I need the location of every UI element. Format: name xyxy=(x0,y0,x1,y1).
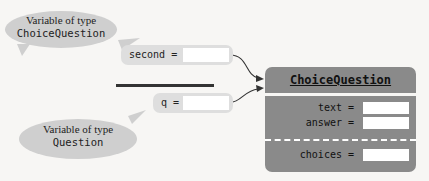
separator-bar xyxy=(116,84,214,87)
field-answer: answer = xyxy=(306,116,354,130)
callout-type: ChoiceQuestion xyxy=(5,27,117,40)
field-slot-answer xyxy=(363,117,409,129)
field-choices: choices = xyxy=(300,148,354,162)
field-slot-choices xyxy=(363,149,409,161)
variable-label: second = xyxy=(129,45,177,65)
callout-choicequestion: Variable of type ChoiceQuestion xyxy=(5,11,117,48)
variable-second: second = xyxy=(121,45,233,65)
callout-question: Variable of type Question xyxy=(19,119,137,159)
field-slot-text xyxy=(363,102,409,114)
object-body: text = answer = choices = xyxy=(265,96,416,172)
callout-text: Variable of type xyxy=(19,123,137,136)
callout-type: Question xyxy=(19,136,137,149)
class-name: ChoiceQuestion xyxy=(290,73,391,87)
variable-label: q = xyxy=(161,93,179,113)
field-text: text = xyxy=(318,101,354,115)
reference-slot xyxy=(183,48,229,62)
object-header: ChoiceQuestion xyxy=(265,67,416,93)
subclass-divider xyxy=(265,139,416,141)
choicequestion-object: ChoiceQuestion text = answer = choices = xyxy=(265,67,416,172)
variable-q: q = xyxy=(153,93,233,113)
reference-slot xyxy=(183,96,229,110)
callout-text: Variable of type xyxy=(5,14,117,27)
